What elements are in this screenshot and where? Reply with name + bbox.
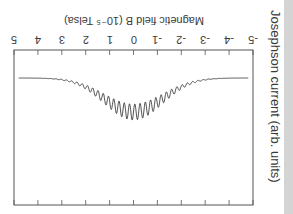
plot-frame <box>14 50 253 205</box>
chart-figure: Magnetic field B (10⁻⁵ Telsa) Josephson … <box>0 0 293 214</box>
josephson-current-curve <box>19 78 248 120</box>
plot-area <box>0 0 293 214</box>
